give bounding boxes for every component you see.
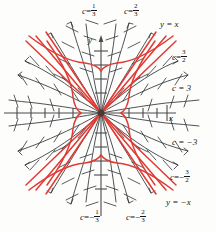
axis-arrowheads — [99, 35, 104, 42]
label-c-minus-one-third: c=−13 — [80, 210, 100, 226]
frac-num: 1 — [94, 209, 100, 216]
label-c-minus-three-halves: c=−32 — [170, 170, 190, 186]
label-y-equals-minus-x: y = −x — [166, 198, 191, 207]
frac-num: 2 — [133, 3, 139, 10]
frac-den: 3 — [140, 216, 146, 225]
label-eq: =− — [84, 212, 94, 222]
frac-num: 1 — [91, 3, 97, 10]
origin-point — [98, 110, 105, 117]
frac-den: 2 — [184, 176, 190, 185]
frac-num: 3 — [184, 169, 190, 176]
figure-canvas: c=13 c=23 y = x c=32 c = 3 c = −3 c=−32 … — [0, 0, 216, 232]
frac-den: 3 — [91, 10, 97, 19]
label-c-minus-two-thirds: c=−23 — [126, 210, 146, 226]
label-eq: =− — [130, 212, 140, 222]
label-c-one-third: c=13 — [82, 4, 97, 20]
label-c-three-halves: c=32 — [172, 50, 187, 66]
frac-num: 2 — [140, 209, 146, 216]
label-c-two-thirds: c=23 — [124, 4, 139, 20]
label-eq: =− — [174, 172, 184, 182]
x-axis-label: x — [169, 113, 173, 123]
label-y-equals-x: y = x — [160, 20, 179, 29]
label-c-minus-three: c = −3 — [172, 138, 197, 147]
frac-den: 3 — [133, 10, 139, 19]
frac-num: 3 — [181, 49, 187, 56]
frac-den: 2 — [181, 56, 187, 65]
frac-den: 3 — [94, 216, 100, 225]
y-axis-label: y — [88, 35, 92, 45]
label-c-three: c = 3 — [172, 84, 191, 93]
